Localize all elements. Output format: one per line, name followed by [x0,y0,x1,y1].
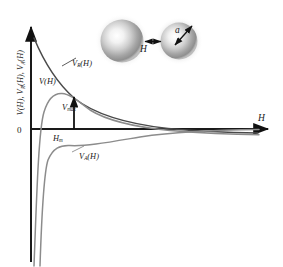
y-axis-label-repulsive: VR(H) [16,74,25,94]
y-axis-label-total: V(H) [16,99,25,116]
curve-label-repulsive: VR(H) [72,59,92,68]
inset-separation-label: H [140,44,147,54]
curve-label-total: V(H) [39,77,56,86]
dlvo-figure [0,0,283,267]
barrier-position-label: Hm [53,134,63,143]
sphere-left [101,20,144,63]
y-axis-label-attractive: VA(H) [16,50,25,70]
inset-radius-label: a [175,25,180,35]
x-axis-label: H [258,113,265,123]
energy-barrier-label: Vmax [62,103,76,112]
curve-label-attractive: VA(H) [79,152,99,161]
origin-label: 0 [17,125,22,135]
